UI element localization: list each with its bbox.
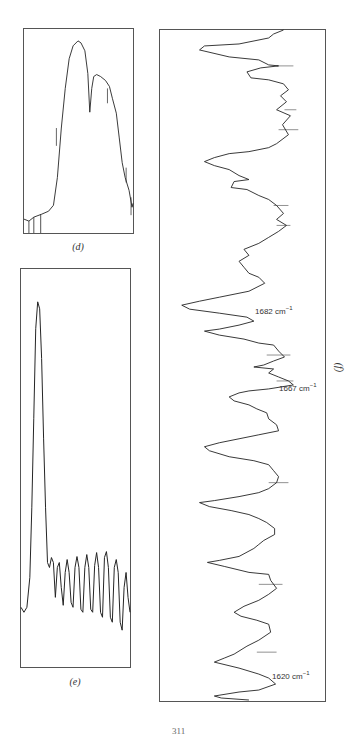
annotation-1667-sup: −1 [310, 382, 317, 388]
annotation-1620: 1620 cm−1 [272, 670, 310, 681]
annotation-1667-text: 1667 cm [279, 384, 310, 393]
annotation-1682: 1682 cm−1 [255, 305, 293, 316]
panel-f-label: (f) [334, 359, 345, 377]
spectrum-e-plot [21, 269, 130, 667]
annotation-1620-text: 1620 cm [272, 672, 303, 681]
annotation-1682-sup: −1 [286, 305, 293, 311]
spectrum-d-plot [24, 29, 133, 233]
panel-e-frame [20, 268, 131, 668]
panel-d-frame [23, 28, 134, 234]
page-number: 311 [172, 726, 185, 736]
panel-e-label: (e) [60, 676, 90, 687]
annotation-1667: 1667 cm−1 [279, 382, 317, 393]
annotation-1682-text: 1682 cm [255, 307, 286, 316]
spectrum-f-plot [160, 30, 325, 701]
annotation-1620-sup: −1 [303, 670, 310, 676]
panel-d-label: (d) [63, 241, 93, 252]
panel-f-frame [159, 29, 326, 702]
